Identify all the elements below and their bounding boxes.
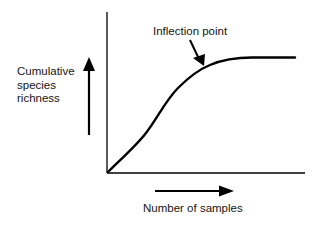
x-axis-label: Number of samples: [143, 202, 243, 216]
y-axis-label-line-2: species: [17, 79, 75, 93]
y-axis-label-line-3: richness: [17, 92, 75, 106]
inflection-arrowhead-icon: [193, 54, 205, 66]
inflection-arrow-icon: [190, 40, 199, 59]
accumulation-curve: [108, 58, 295, 173]
x-direction-arrowhead-icon: [219, 186, 234, 197]
y-axis-label-line-1: Cumulative: [17, 65, 75, 79]
species-accumulation-diagram: Inflection point Cumulative species rich…: [0, 0, 320, 226]
y-direction-arrowhead-icon: [83, 57, 95, 71]
y-axis-label: Cumulative species richness: [17, 65, 75, 106]
inflection-point-label: Inflection point: [153, 25, 227, 39]
